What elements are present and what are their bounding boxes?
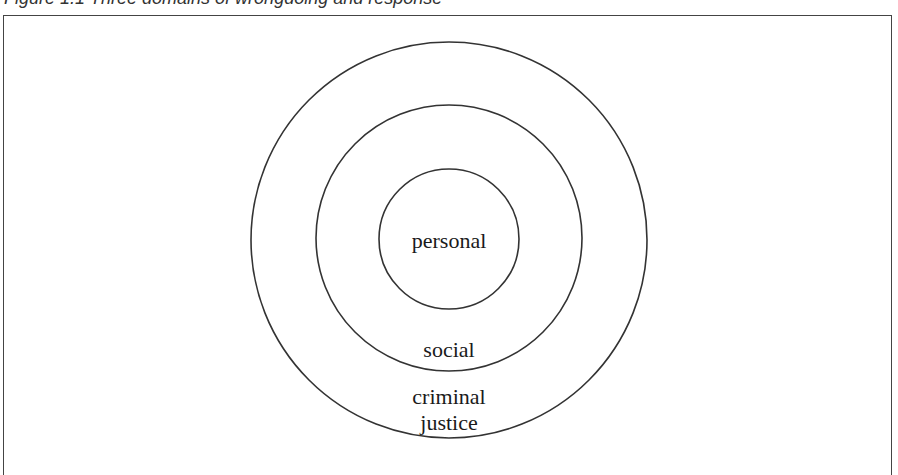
- label-criminal: criminal: [412, 384, 485, 409]
- label-social: social: [423, 337, 474, 362]
- label-personal: personal: [412, 228, 487, 253]
- label-justice: justice: [419, 410, 477, 435]
